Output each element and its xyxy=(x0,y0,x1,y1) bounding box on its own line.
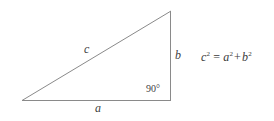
equation-term1-exponent: 2 xyxy=(229,50,233,58)
equation-term2-exponent: 2 xyxy=(248,50,252,58)
equation-lhs-exponent: 2 xyxy=(207,50,211,58)
vertical-side-label-b: b xyxy=(175,49,181,61)
pythagorean-equation: c2=a2+b2 xyxy=(201,50,252,65)
base-side-label-a: a xyxy=(95,102,101,114)
right-angle-label: 90° xyxy=(146,84,160,94)
hypotenuse-label-c: c xyxy=(84,43,89,55)
equation-equals-operator: = xyxy=(213,50,220,64)
pythagorean-theorem-figure: c b a 90° c2=a2+b2 xyxy=(0,0,274,121)
equation-plus-operator: + xyxy=(234,50,241,64)
